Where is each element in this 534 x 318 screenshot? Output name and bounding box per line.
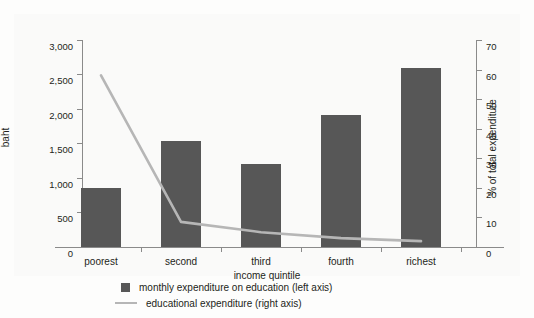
chart-figure: monthly expenditure on education, by qui…: [0, 0, 534, 318]
educational-expenditure-line: [101, 75, 421, 241]
legend-square-icon: [121, 283, 130, 292]
line-series: [14, 14, 520, 276]
legend-label-line: educational expenditure (right axis): [146, 298, 302, 309]
chart-legend: monthly expenditure on education (left a…: [0, 279, 534, 311]
legend-item-line: educational expenditure (right axis): [0, 295, 534, 311]
legend-item-bars: monthly expenditure on education (left a…: [0, 279, 534, 295]
chart-title-cropped: monthly expenditure on education, by qui…: [0, 0, 534, 13]
left-axis-title: baht: [0, 128, 11, 147]
legend-line-icon: [115, 302, 137, 304]
plot-area: 3,000 2,500 2,000 1,500 1,000 500 0 70 6…: [14, 14, 520, 276]
legend-label-bars: monthly expenditure on education (left a…: [139, 282, 332, 293]
